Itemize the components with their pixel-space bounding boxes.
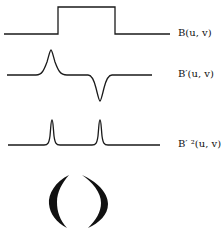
- trace-b-prime-squared: [8, 120, 160, 145]
- label-b-prime-squared: B′ ²(u, v): [178, 138, 221, 149]
- label-b-prime: B′(u, v): [178, 68, 214, 79]
- left-crescent: [49, 175, 69, 228]
- label-b: B(u, v): [178, 27, 212, 38]
- right-crescent: [82, 175, 108, 228]
- trace-b-step: [4, 7, 170, 34]
- trace-b-prime: [7, 50, 152, 101]
